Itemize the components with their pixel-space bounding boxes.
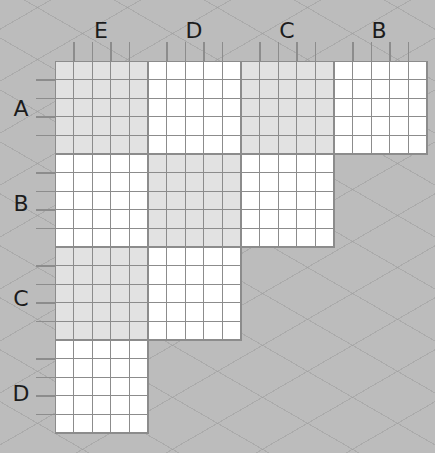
grid-cell[interactable] [334,98,354,118]
grid-cell[interactable] [129,135,149,155]
grid-cell[interactable] [129,247,149,267]
grid-cell[interactable] [222,247,242,267]
grid-cell[interactable] [241,98,261,118]
grid-cell[interactable] [185,302,205,322]
grid-cell[interactable] [92,321,112,341]
grid-cell[interactable] [55,302,75,322]
grid-cell[interactable] [129,302,149,322]
grid-cell[interactable] [278,191,298,211]
grid-cell[interactable] [92,228,112,248]
grid-cell[interactable] [92,358,112,378]
grid-cell[interactable] [166,265,186,285]
grid-cell[interactable] [203,302,223,322]
grid-cell[interactable] [259,98,279,118]
grid-cell[interactable] [92,79,112,99]
grid-cell[interactable] [296,172,316,192]
grid-cell[interactable] [315,172,335,192]
grid-cell[interactable] [148,321,168,341]
grid-cell[interactable] [296,61,316,81]
grid-cell[interactable] [55,340,75,360]
grid-cell[interactable] [185,228,205,248]
grid-cell[interactable] [259,172,279,192]
grid-cell[interactable] [185,321,205,341]
grid-cell[interactable] [222,284,242,304]
grid-cell[interactable] [110,209,130,229]
grid-cell[interactable] [92,209,112,229]
grid-cell[interactable] [129,395,149,415]
grid-cell[interactable] [371,79,391,99]
grid-cell[interactable] [241,172,261,192]
grid-cell[interactable] [92,116,112,136]
grid-cell[interactable] [166,116,186,136]
grid-cell[interactable] [55,135,75,155]
grid-cell[interactable] [129,154,149,174]
grid-cell[interactable] [371,61,391,81]
grid-cell[interactable] [92,414,112,434]
grid-cell[interactable] [55,265,75,285]
grid-cell[interactable] [203,172,223,192]
grid-cell[interactable] [92,302,112,322]
grid-cell[interactable] [73,302,93,322]
grid-cell[interactable] [92,98,112,118]
grid-cell[interactable] [241,191,261,211]
grid-cell[interactable] [296,209,316,229]
grid-cell[interactable] [92,191,112,211]
grid-cell[interactable] [129,79,149,99]
grid-cell[interactable] [73,79,93,99]
grid-cell[interactable] [203,154,223,174]
grid-cell[interactable] [203,321,223,341]
grid-cell[interactable] [110,116,130,136]
grid-cell[interactable] [110,414,130,434]
grid-cell[interactable] [185,154,205,174]
grid-cell[interactable] [110,135,130,155]
grid-cell[interactable] [110,395,130,415]
grid-cell[interactable] [185,209,205,229]
grid-cell[interactable] [203,265,223,285]
grid-cell[interactable] [110,154,130,174]
grid-cell[interactable] [278,116,298,136]
grid-cell[interactable] [55,79,75,99]
grid-cell[interactable] [315,61,335,81]
grid-cell[interactable] [129,265,149,285]
grid-cell[interactable] [73,340,93,360]
grid-cell[interactable] [259,116,279,136]
grid-cell[interactable] [203,61,223,81]
grid-cell[interactable] [278,228,298,248]
grid-cell[interactable] [352,79,372,99]
grid-cell[interactable] [278,154,298,174]
grid-cell[interactable] [148,247,168,267]
grid-cell[interactable] [408,61,428,81]
grid-cell[interactable] [55,247,75,267]
grid-cell[interactable] [55,284,75,304]
grid-cell[interactable] [73,228,93,248]
grid-cell[interactable] [315,135,335,155]
grid-cell[interactable] [241,154,261,174]
grid-cell[interactable] [129,377,149,397]
grid-cell[interactable] [129,414,149,434]
grid-cell[interactable] [315,191,335,211]
grid-cell[interactable] [110,284,130,304]
grid-cell[interactable] [222,302,242,322]
grid-cell[interactable] [110,228,130,248]
grid-cell[interactable] [241,116,261,136]
grid-cell[interactable] [73,358,93,378]
grid-cell[interactable] [55,98,75,118]
grid-cell[interactable] [73,247,93,267]
grid-cell[interactable] [408,116,428,136]
grid-cell[interactable] [185,172,205,192]
grid-cell[interactable] [73,321,93,341]
grid-cell[interactable] [166,247,186,267]
grid-cell[interactable] [92,265,112,285]
grid-cell[interactable] [315,228,335,248]
grid-cell[interactable] [389,135,409,155]
grid-cell[interactable] [185,191,205,211]
grid-cell[interactable] [110,98,130,118]
grid-cell[interactable] [352,61,372,81]
grid-cell[interactable] [129,321,149,341]
grid-cell[interactable] [408,135,428,155]
grid-cell[interactable] [166,209,186,229]
grid-cell[interactable] [296,228,316,248]
grid-cell[interactable] [92,247,112,267]
grid-cell[interactable] [296,154,316,174]
grid-cell[interactable] [185,247,205,267]
